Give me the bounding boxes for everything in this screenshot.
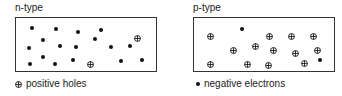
electron-dot [109,45,113,49]
legend-holes-label: positive holes [26,79,87,89]
electron-dot [318,58,322,62]
hole-icon [134,28,141,35]
electron-dot [240,27,244,31]
hole-icon [266,26,273,33]
hole-icon [252,36,259,43]
hole-icon [207,54,214,61]
electron-dot [140,58,144,62]
hole-icon [15,81,22,88]
hole-icon [314,40,321,47]
hole-icon [87,54,94,61]
electron-dot [28,62,32,66]
hole-icon [207,26,214,33]
hole-icon [292,43,299,50]
electron-dot [41,55,45,59]
electron-dot [93,37,97,41]
electron-dot [58,44,62,48]
hole-icon [230,40,237,47]
hole-icon [270,40,277,47]
hole-icon [310,26,317,33]
electron-dot [41,38,45,42]
electron-dot [30,26,34,30]
electron-dot [99,28,103,32]
legend-electrons-label: negative electrons [204,79,285,89]
hole-icon [288,26,295,33]
hole-icon [301,53,308,60]
electron-dot [27,46,31,50]
electron-icon [196,82,200,86]
electron-dot [54,27,58,31]
electron-dot [76,30,80,34]
electron-dot [74,45,78,49]
legend-electrons: negative electrons [196,79,285,89]
electron-dot [53,62,57,66]
legend-holes: positive holes [15,79,87,89]
n-type-title: n-type [15,3,43,13]
p-type-title: p-type [193,3,221,13]
electron-dot [71,58,75,62]
electron-dot [119,59,123,63]
hole-icon [244,54,251,61]
electron-dot [128,44,132,48]
hole-icon [265,55,272,62]
